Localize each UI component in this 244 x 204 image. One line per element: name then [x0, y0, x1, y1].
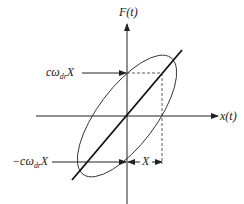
- upper-intercept-label: cωdrX: [46, 66, 74, 81]
- diagram-graphics: [0, 0, 244, 204]
- upper-intercept-sub: dr: [60, 72, 67, 81]
- upper-intercept-prefix: cω: [46, 65, 60, 79]
- hysteresis-diagram: F(t) x(t) cωdrX −cωdrX X: [0, 0, 244, 204]
- lower-intercept-sub: dr: [34, 161, 41, 170]
- x-axis-label: x(t): [220, 110, 237, 122]
- lower-intercept-label: −cωdrX: [12, 155, 48, 170]
- upper-intercept-suffix: X: [67, 65, 74, 79]
- amplitude-label: X: [141, 155, 150, 167]
- lower-intercept-suffix: X: [41, 154, 48, 168]
- lower-intercept-prefix: −cω: [12, 154, 34, 168]
- y-axis-label: F(t): [119, 6, 138, 18]
